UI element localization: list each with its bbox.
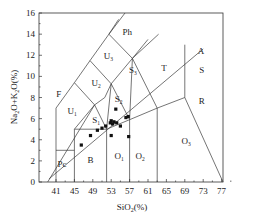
sample-point [89,134,92,137]
x-tick-label: 69 [180,186,190,196]
plot-frame [39,13,223,182]
field-label-o1: O1 [114,151,124,162]
field-label-s1: S1 [92,115,100,126]
sample-point [115,121,118,124]
field-label-o2: O2 [136,151,146,162]
x-tick-label: 77 [217,186,227,196]
x-tick-label: 57 [125,186,135,196]
x-tick-label: 73 [199,186,209,196]
field-label-pc: Pc [57,159,66,169]
field-label-s: S [199,65,204,75]
x-tick-label: 61 [144,186,153,196]
field-label-u1: U1 [67,106,77,117]
sample-point [96,129,99,132]
sample-point [114,108,117,111]
sample-point [127,115,130,118]
y-tick-label: 0 [31,177,36,187]
y-tick-label: 14 [26,29,36,39]
sample-point [112,120,115,123]
x-tick-label: 53 [107,186,117,196]
sample-point [119,124,122,127]
field-label-t: T [161,63,167,73]
x-tick-label: 65 [162,186,172,196]
field-label-ph: Ph [123,27,133,37]
y-tick-label: 8 [31,93,36,103]
field-label-a: A [198,46,205,56]
field-boundary-line [109,34,132,120]
field-label-r: R [199,96,205,106]
field-label-u2: U2 [91,78,101,89]
y-tick-label: 12 [26,50,35,60]
sample-point [127,135,130,138]
field-boundary-line [132,39,148,58]
sample-point [100,127,103,130]
field-boundary-line [132,58,157,182]
field-boundary-line [74,98,223,183]
sample-point [110,119,113,122]
y-tick-label: 2 [31,156,36,166]
field-label-s2: S2 [115,94,123,105]
sample-point [80,143,83,146]
field-label-s3: S3 [129,65,137,76]
sample-point [104,124,107,127]
y-tick-label: 6 [31,114,36,124]
field-label-u3: U3 [104,51,114,62]
x-tick-label: 41 [52,186,61,196]
x-axis-label: SiO2(%) [117,202,148,213]
tas-diagram: 414549535761656973770246810121416 PhTASR… [0,0,254,218]
x-tick-label: 45 [70,186,80,196]
field-label-f: F [56,89,61,99]
sample-point [110,134,113,137]
y-tick-label: 16 [26,8,36,18]
field-boundary-line [109,19,119,34]
y-axis-label: Na2O+K2O(%) [9,70,20,125]
y-tick-label: 4 [31,135,36,145]
field-label-o3: O3 [182,136,192,147]
y-tick-label: 10 [26,71,36,81]
field-label-b: B [87,155,93,165]
x-tick-label: 49 [88,186,98,196]
